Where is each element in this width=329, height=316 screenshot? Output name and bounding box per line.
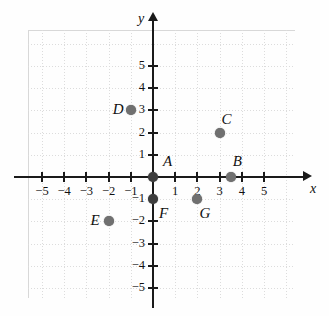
x-axis-tick bbox=[219, 172, 221, 182]
data-point-b bbox=[226, 172, 236, 182]
dotted-grid bbox=[28, 30, 295, 298]
grid-line-vertical bbox=[197, 30, 198, 298]
x-tick-label: −4 bbox=[53, 184, 75, 199]
data-point-c bbox=[215, 128, 225, 138]
y-axis-label: y bbox=[138, 11, 144, 27]
x-axis-tick bbox=[85, 172, 87, 182]
y-axis-tick bbox=[148, 265, 158, 267]
x-axis-tick bbox=[41, 172, 43, 182]
y-axis-tick bbox=[148, 109, 158, 111]
y-axis-tick bbox=[148, 132, 158, 134]
x-tick-label: 3 bbox=[209, 184, 231, 199]
y-tick-label: 1 bbox=[125, 147, 145, 162]
x-tick-label: −3 bbox=[75, 184, 97, 199]
grid-line-horizontal bbox=[28, 155, 295, 156]
grid-line-vertical bbox=[109, 30, 110, 298]
point-label-g: G bbox=[199, 205, 210, 222]
point-label-c: C bbox=[222, 111, 232, 128]
grid-line-vertical bbox=[286, 30, 287, 298]
y-tick-label: −1 bbox=[125, 191, 145, 206]
y-axis-tick bbox=[148, 220, 158, 222]
point-label-f: F bbox=[159, 205, 168, 222]
x-axis-label: x bbox=[310, 181, 316, 197]
grid-line-vertical bbox=[86, 30, 87, 298]
y-axis-tick bbox=[148, 243, 158, 245]
x-axis-tick bbox=[263, 172, 265, 182]
data-point-e bbox=[104, 216, 114, 226]
x-axis-arrowhead-icon bbox=[303, 171, 312, 181]
y-tick-label: −4 bbox=[125, 258, 145, 273]
x-tick-label: −5 bbox=[31, 184, 53, 199]
x-axis-tick bbox=[174, 172, 176, 182]
grid-line-vertical bbox=[64, 30, 65, 298]
y-tick-label: 5 bbox=[125, 58, 145, 73]
y-axis-tick bbox=[148, 87, 158, 89]
y-tick-label: 2 bbox=[125, 125, 145, 140]
grid-line-horizontal bbox=[28, 44, 295, 45]
point-label-a: A bbox=[163, 153, 172, 170]
grid-line-vertical bbox=[220, 30, 221, 298]
y-axis-arrowhead-icon bbox=[148, 12, 158, 21]
grid-line-vertical bbox=[264, 30, 265, 298]
grid-line-vertical bbox=[242, 30, 243, 298]
x-tick-label: 4 bbox=[231, 184, 253, 199]
y-tick-label: 4 bbox=[125, 80, 145, 95]
y-tick-label: −3 bbox=[125, 236, 145, 251]
y-axis-tick bbox=[148, 154, 158, 156]
grid-line-horizontal bbox=[28, 199, 295, 200]
x-axis-tick bbox=[196, 172, 198, 182]
grid-line-horizontal bbox=[28, 88, 295, 89]
grid-line-vertical bbox=[175, 30, 176, 298]
x-axis-tick bbox=[241, 172, 243, 182]
x-tick-label: −2 bbox=[98, 184, 120, 199]
x-tick-label: 1 bbox=[164, 184, 186, 199]
coordinate-plane-figure: x y −5−4−3−2−11234554321−1−2−3−4−5 ABCDE… bbox=[0, 0, 329, 316]
x-axis-tick bbox=[130, 172, 132, 182]
grid-line-horizontal bbox=[28, 288, 295, 289]
grid-line-horizontal bbox=[28, 110, 295, 111]
y-axis-tick bbox=[148, 287, 158, 289]
point-label-e: E bbox=[91, 212, 100, 229]
x-axis-tick bbox=[108, 172, 110, 182]
data-point-a bbox=[148, 172, 158, 182]
grid-line-horizontal bbox=[28, 66, 295, 67]
grid-line-horizontal bbox=[28, 244, 295, 245]
grid-line-vertical bbox=[42, 30, 43, 298]
x-tick-label: 5 bbox=[253, 184, 275, 199]
y-tick-label: −5 bbox=[125, 280, 145, 295]
grid-line-horizontal bbox=[28, 266, 295, 267]
y-axis-tick bbox=[148, 65, 158, 67]
point-label-b: B bbox=[233, 153, 242, 170]
grid-line-horizontal bbox=[28, 133, 295, 134]
point-label-d: D bbox=[113, 101, 124, 118]
x-axis-tick bbox=[63, 172, 65, 182]
y-tick-label: −2 bbox=[125, 213, 145, 228]
